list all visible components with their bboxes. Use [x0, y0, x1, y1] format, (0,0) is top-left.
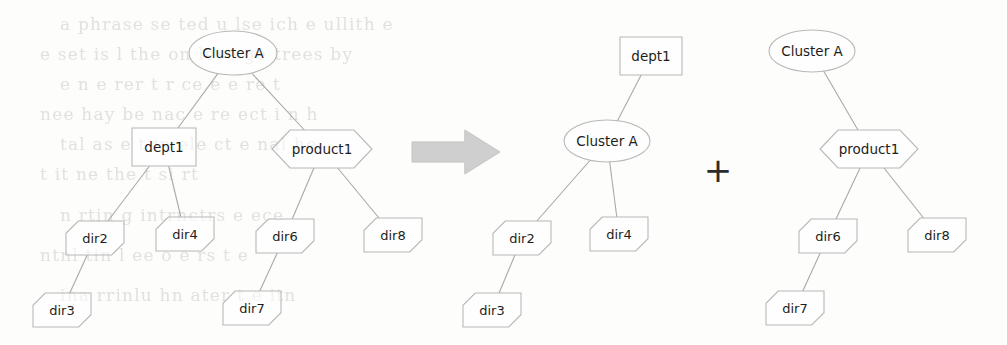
- node-label: dir4: [606, 227, 631, 242]
- edge-after1-cluster-a-to-after1-dir4: [610, 161, 617, 217]
- edge-before-dir2-to-before-dir3: [70, 255, 87, 293]
- node-dir7[interactable]: dir7: [766, 291, 824, 325]
- node-dir8[interactable]: dir8: [908, 218, 966, 252]
- node-dir6[interactable]: dir6: [256, 219, 314, 253]
- node-label: dir6: [815, 229, 840, 244]
- node-dept1[interactable]: dept1: [620, 37, 682, 75]
- node-label: dir7: [782, 301, 807, 316]
- node-label: dir2: [509, 231, 534, 246]
- node-label: product1: [839, 141, 900, 157]
- edge-before-dept1-to-before-dir2: [108, 166, 150, 221]
- node-dir8[interactable]: dir8: [364, 218, 422, 252]
- node-dir2[interactable]: dir2: [493, 221, 551, 255]
- node-dir4[interactable]: dir4: [156, 217, 214, 251]
- edge-before-dir6-to-before-dir7: [260, 253, 277, 291]
- diagram-canvas: a phrase se ted u lse ich e ullith ee se…: [0, 0, 1007, 345]
- node-label: dept1: [144, 139, 183, 155]
- node-dir7[interactable]: dir7: [223, 291, 281, 325]
- edge-after1-dept1-to-after1-cluster-a: [617, 75, 641, 121]
- edge-before-cluster-a-to-before-dept1: [178, 74, 218, 128]
- node-cluster-a[interactable]: Cluster A: [189, 31, 277, 75]
- node-dir3[interactable]: dir3: [463, 293, 521, 327]
- node-cluster-a[interactable]: Cluster A: [769, 30, 855, 72]
- node-label: product1: [292, 141, 353, 157]
- node-dir2[interactable]: dir2: [66, 221, 124, 255]
- node-dir3[interactable]: dir3: [33, 293, 91, 327]
- node-dept1[interactable]: dept1: [132, 128, 196, 166]
- edge-after1-cluster-a-to-after1-dir2: [537, 161, 590, 221]
- node-cluster-a[interactable]: Cluster A: [564, 120, 650, 162]
- union-plus-icon: +: [704, 150, 733, 190]
- cluster-split-figure: Cluster Adept1product1dir2dir4dir6dir8di…: [0, 0, 1007, 345]
- edge-after1-dir2-to-after1-dir3: [499, 255, 515, 293]
- node-dir6[interactable]: dir6: [799, 219, 857, 253]
- edge-before-cluster-a-to-before-product1: [252, 74, 304, 130]
- transform-arrow-icon: [412, 130, 500, 174]
- edge-after2-product1-to-after2-dir8: [884, 168, 924, 218]
- node-product1[interactable]: product1: [820, 130, 918, 168]
- node-label: Cluster A: [781, 43, 843, 59]
- node-label: dir4: [172, 227, 197, 242]
- edge-before-dept1-to-before-dir4: [169, 166, 181, 217]
- edge-after2-product1-to-after2-dir6: [836, 168, 860, 219]
- node-label: dir2: [82, 231, 107, 246]
- edge-before-product1-to-before-dir6: [292, 168, 314, 219]
- edge-before-product1-to-before-dir8: [338, 168, 379, 218]
- edge-after2-dir6-to-after2-dir7: [803, 253, 820, 291]
- node-label: dept1: [631, 48, 670, 64]
- edge-after2-cluster-a-to-after2-product1: [823, 71, 857, 130]
- node-product1[interactable]: product1: [272, 130, 372, 168]
- edge-layer: [70, 71, 924, 293]
- node-label: Cluster A: [576, 133, 638, 149]
- node-label: Cluster A: [202, 45, 264, 61]
- node-label: dir8: [924, 228, 949, 243]
- node-dir4[interactable]: dir4: [590, 217, 648, 251]
- node-label: dir3: [479, 303, 504, 318]
- node-label: dir7: [239, 301, 264, 316]
- node-label: dir6: [272, 229, 297, 244]
- node-label: dir8: [380, 228, 405, 243]
- node-label: dir3: [49, 303, 74, 318]
